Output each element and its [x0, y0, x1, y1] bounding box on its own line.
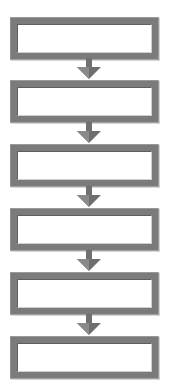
- arrow-down-icon: [77, 58, 101, 79]
- flowchart: [0, 0, 169, 390]
- arrow-down-icon: [77, 250, 101, 271]
- flow-step-3: [10, 144, 159, 187]
- arrow-down-icon: [77, 314, 101, 335]
- flow-step-3-label: [17, 151, 152, 180]
- flow-step-2: [10, 80, 159, 123]
- flow-step-1-label: [17, 24, 152, 53]
- flow-step-6: [10, 336, 159, 379]
- flow-step-5: [10, 272, 159, 315]
- flow-step-5-label: [17, 279, 152, 308]
- flow-step-4-label: [17, 215, 152, 244]
- flow-step-2-label: [17, 87, 152, 116]
- flow-step-1: [10, 17, 159, 60]
- flow-step-4: [10, 208, 159, 251]
- arrow-down-icon: [77, 186, 101, 207]
- flow-step-6-label: [17, 343, 152, 372]
- arrow-down-icon: [77, 122, 101, 143]
